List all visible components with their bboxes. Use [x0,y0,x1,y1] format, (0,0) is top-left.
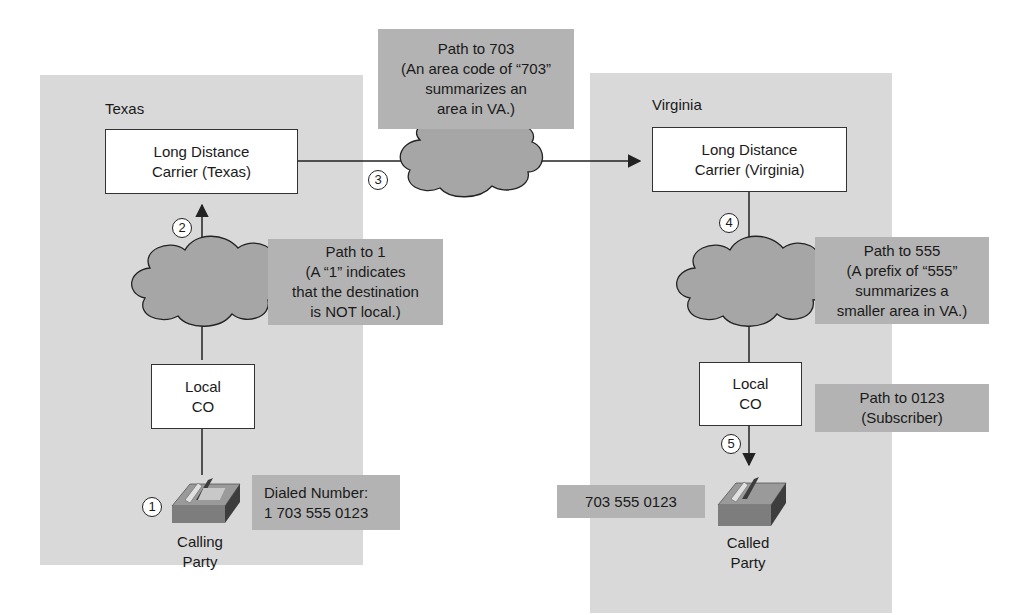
ld-carrier-virginia-line1: Long Distance [702,140,798,160]
note-received-number: 703 555 0123 [557,485,705,518]
local-co-texas-line1: Local [185,377,221,397]
note-dialed-number: Dialed Number: 1 703 555 0123 [252,475,400,530]
note-path-0123: Path to 0123 (Subscriber) [815,384,989,432]
called-party-caption: Called Party [708,533,788,573]
ld-carrier-virginia-line2: Carrier (Virginia) [695,160,805,180]
ld-carrier-virginia: Long Distance Carrier (Virginia) [652,127,847,192]
note-path-1: Path to 1 (A “1” indicates that the dest… [268,239,443,325]
cloud-icon [400,120,542,197]
ld-carrier-texas-line2: Carrier (Texas) [152,162,251,182]
cloud-icon [132,236,284,326]
note-path-703: Path to 703 (An area code of “703” summa… [378,29,574,129]
local-co-virginia: Local CO [699,362,802,426]
ld-carrier-texas: Long Distance Carrier (Texas) [105,129,298,194]
step-1-marker: 1 [142,497,162,517]
step-5-marker: 5 [721,434,741,454]
step-4-marker: 4 [719,213,739,233]
local-co-texas-line2: CO [192,397,215,417]
step-2-marker: 2 [172,218,192,238]
local-co-virginia-line1: Local [733,374,769,394]
local-co-texas: Local CO [151,364,255,429]
telephone-icon [172,478,240,523]
local-co-virginia-line2: CO [739,394,762,414]
ld-carrier-texas-line1: Long Distance [154,142,250,162]
note-path-555: Path to 555 (A prefix of “555” summarize… [815,237,989,324]
telephone-icon [718,477,786,526]
calling-party-caption: Calling Party [160,532,240,572]
cloud-icon [677,236,829,326]
step-3-marker: 3 [368,170,388,190]
